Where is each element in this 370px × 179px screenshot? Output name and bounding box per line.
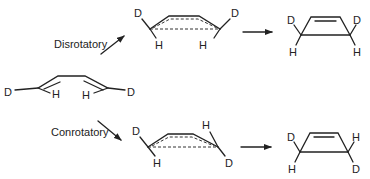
prod-con-right-bottom: D [352,163,360,175]
ts-con-right-top: H [202,119,210,131]
reactant-left-sub: D [4,86,12,98]
prod-con-right-top: H [352,131,360,143]
ts-con-left-top: D [132,125,140,137]
prod-dis-right-bottom: H [353,46,361,58]
prod-con-left-top: D [287,131,295,143]
reactant-right-sub: D [127,86,135,98]
disrotatory-label: Disrotatory [54,38,108,50]
prod-con-left-bottom: H [288,163,296,175]
conrotatory-product: D H H D [287,131,360,175]
electrocyclic-diagram: D H H D Disrotatory D H D H D H D H Conr… [0,0,370,179]
ts-dis-left-top: D [134,7,142,19]
reactant-left-h: H [52,88,60,100]
prod-dis-left-bottom: H [289,46,297,58]
conrotatory-transition-state: D H H D [132,119,233,169]
conrotatory-label: Conrotatory [51,126,109,138]
ts-dis-right-bottom: H [199,39,207,51]
prod-dis-left-top: D [287,14,295,26]
ts-con-left-bottom: H [153,157,161,169]
disrotatory-transition-state: D H D H [134,7,239,51]
ts-dis-right-top: D [231,7,239,19]
reactant-right-h: H [82,89,90,101]
ts-dis-left-bottom: H [155,39,163,51]
prod-dis-right-top: D [353,14,361,26]
reactant-diene: D H H D [4,76,135,101]
ts-con-right-bottom: D [225,157,233,169]
disrotatory-product: D H D H [287,14,361,58]
